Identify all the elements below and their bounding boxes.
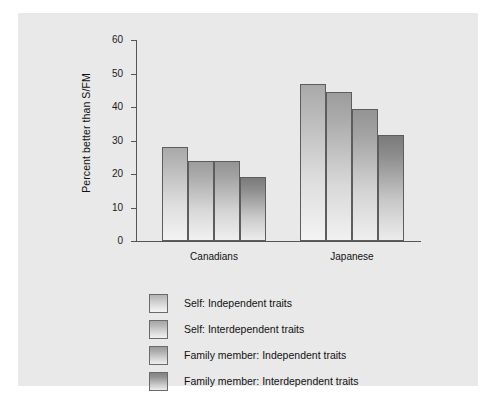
y-axis-line <box>136 40 137 241</box>
legend-item: Self: Independent traits <box>149 290 409 316</box>
legend-label: Family member: Interdependent traits <box>184 375 359 387</box>
x-axis-line <box>136 241 421 242</box>
legend-item: Family member: Interdependent traits <box>149 368 409 394</box>
chart-legend: Self: Independent traitsSelf: Interdepen… <box>149 290 409 394</box>
legend-item: Family member: Independent traits <box>149 342 409 368</box>
bar <box>214 161 240 241</box>
y-axis-title: Percent better than S/FM <box>80 73 92 193</box>
bar <box>378 135 404 241</box>
bar <box>352 109 378 241</box>
y-axis-tick: 10 <box>131 208 136 209</box>
y-axis-tick-label: 60 <box>112 35 123 45</box>
figure-panel: Percent better than S/FM 0102030405060 C… <box>18 13 478 386</box>
y-axis-tick: 0 <box>131 241 136 242</box>
bar <box>162 147 188 241</box>
y-axis-tick-label: 40 <box>112 102 123 112</box>
legend-swatch <box>149 294 168 313</box>
legend-label: Family member: Independent traits <box>184 349 346 361</box>
y-axis-tick-label: 50 <box>112 69 123 79</box>
y-axis-tick: 60 <box>131 40 136 41</box>
y-axis-tick-label: 0 <box>117 236 123 246</box>
legend-swatch <box>149 346 168 365</box>
legend-swatch <box>149 372 168 391</box>
y-axis-tick-label: 30 <box>112 136 123 146</box>
y-axis-tick: 30 <box>131 141 136 142</box>
category-label: Canadians <box>190 251 238 262</box>
legend-item: Self: Interdependent traits <box>149 316 409 342</box>
legend-label: Self: Independent traits <box>184 297 292 309</box>
bar-group-japanese <box>300 40 404 241</box>
category-label: Japanese <box>330 251 373 262</box>
y-axis-tick: 50 <box>131 74 136 75</box>
y-axis-tick-label: 20 <box>112 169 123 179</box>
bar <box>240 177 266 241</box>
legend-label: Self: Interdependent traits <box>184 323 304 335</box>
y-axis-tick-label: 10 <box>112 203 123 213</box>
y-axis-tick: 40 <box>131 107 136 108</box>
plot-area: 0102030405060 CanadiansJapanese <box>136 27 421 242</box>
bar <box>300 84 326 241</box>
bar-group-canadians <box>162 40 266 241</box>
bar <box>188 161 214 241</box>
y-axis-tick: 20 <box>131 174 136 175</box>
bar <box>326 92 352 241</box>
legend-swatch <box>149 320 168 339</box>
